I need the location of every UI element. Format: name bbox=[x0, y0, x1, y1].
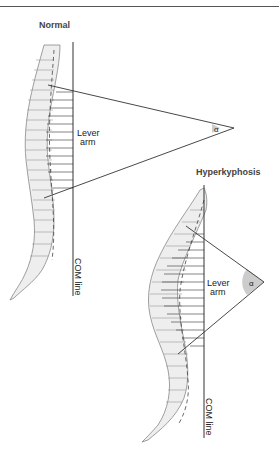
spine-diagram: Lever arm α COM line bbox=[0, 0, 279, 455]
normal-spine bbox=[10, 45, 60, 300]
hyperkyphosis-angle-label: α bbox=[249, 279, 254, 288]
hyperkyphosis-com-label: COM line bbox=[204, 398, 214, 436]
normal-panel: Lever arm α COM line bbox=[10, 42, 234, 300]
hyperkyphosis-panel: Lever arm α COM line bbox=[142, 185, 264, 442]
normal-lever-label-2: arm bbox=[80, 137, 96, 147]
hyperkyphosis-spine bbox=[142, 188, 207, 442]
normal-com-label: COM line bbox=[73, 258, 83, 296]
hyperkyphosis-lever-label-2: arm bbox=[210, 287, 226, 297]
normal-angle-label: α bbox=[214, 125, 219, 134]
